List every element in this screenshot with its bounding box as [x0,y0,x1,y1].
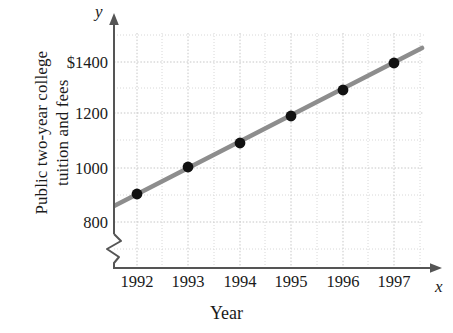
trend-line [114,48,422,206]
data-point-1992 [132,189,143,200]
y-axis [107,24,121,268]
grid-horizontal-major [114,62,424,222]
y-axis-arrowhead [109,13,119,25]
data-point-1994 [235,138,246,149]
data-point-1997 [389,58,400,69]
plot-area [0,0,453,333]
chart-figure: Public two-year college tuition and fees… [0,0,453,333]
data-point-1993 [183,162,194,173]
x-axis-arrowhead [430,263,442,273]
data-point-1995 [286,111,297,122]
grid-horizontal-minor [114,35,424,249]
data-point-1996 [338,85,349,96]
